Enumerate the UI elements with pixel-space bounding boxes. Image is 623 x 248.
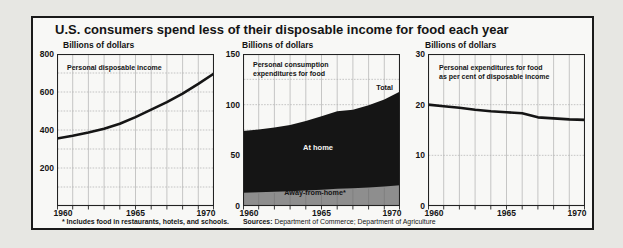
x-tick-label: 1960 (49, 208, 77, 218)
series-label-food-percent: Personal expenditures for food as per ce… (439, 63, 549, 81)
x-tick-label: 1960 (235, 208, 263, 218)
y-axis-unit-label: Billions of dollars (63, 40, 134, 50)
x-tick-label: 1970 (563, 208, 591, 218)
x-axis-ticks: 196019651970 (428, 208, 585, 220)
away-from-home-area-label: Away-from-home* (270, 188, 360, 197)
y-axis-unit-label: Billions of dollars (242, 40, 313, 50)
sources-text: Department of Commerce; Department of Ag… (274, 218, 435, 225)
x-tick-label: 1970 (378, 208, 406, 218)
y-axis-ticks: 150100500 (210, 54, 240, 206)
y-axis-ticks: 3020100 (395, 54, 425, 206)
y-tick-label: 800 (40, 49, 54, 59)
y-tick-label: 150 (226, 49, 240, 59)
series-label-line1: Personal consumption (253, 60, 328, 69)
x-tick-label: 1960 (420, 208, 448, 218)
x-tick-label: 1965 (308, 208, 336, 218)
sources-note: Sources: Department of Commerce; Departm… (243, 218, 436, 225)
y-tick-label: 30 (416, 49, 425, 59)
series-label-disposable-income: Personal disposable income (67, 63, 162, 72)
y-tick-label: 200 (40, 163, 54, 173)
y-axis-unit-label: Billions of dollars (425, 40, 496, 50)
x-tick-label: 1970 (192, 208, 220, 218)
plot-food-percent-income: Personal expenditures for food as per ce… (428, 54, 585, 211)
sources-label: Sources: (243, 218, 273, 225)
y-tick-label: 400 (40, 125, 54, 135)
plot-disposable-income: Personal disposable income (57, 54, 214, 211)
total-area-label: Total (353, 83, 393, 92)
series-label-food-expenditures: Personal consumption expenditures for fo… (253, 60, 328, 78)
x-tick-label: 1965 (493, 208, 521, 218)
figure-title: U.S. consumers spend less of their dispo… (55, 22, 509, 37)
y-tick-label: 100 (226, 100, 240, 110)
y-axis-ticks: 800600400200 (24, 54, 54, 206)
x-tick-label: 1965 (122, 208, 150, 218)
footnote: * Includes food in restaurants, hotels, … (62, 218, 229, 225)
y-tick-label: 10 (416, 150, 425, 160)
y-tick-label: 50 (231, 150, 240, 160)
series-label-line2: as per cent of disposable income (439, 72, 549, 81)
y-tick-label: 20 (416, 100, 425, 110)
y-tick-label: 600 (40, 87, 54, 97)
series-label-line1: Personal expenditures for food (439, 63, 549, 72)
at-home-area-label: At home (283, 143, 353, 152)
figure-page: U.S. consumers spend less of their dispo… (0, 0, 623, 248)
chart-svg (57, 54, 214, 211)
series-label-line2: expenditures for food (253, 69, 328, 78)
plot-food-expenditures: Personal consumption expenditures for fo… (243, 54, 400, 211)
chart-frame: U.S. consumers spend less of their dispo… (31, 16, 594, 230)
